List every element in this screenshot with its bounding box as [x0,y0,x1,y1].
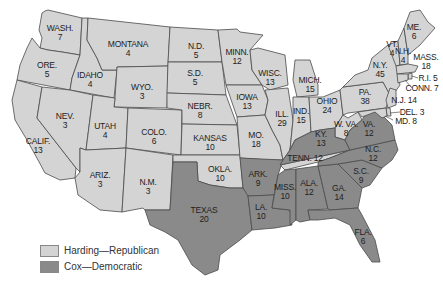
label-nh: N.H.4 [395,47,411,65]
label-ky: KY.13 [315,130,327,148]
label-nj: N.J.14 [391,96,416,105]
label-sd: S.D.5 [187,69,203,87]
label-tenn: TENN.12 [287,154,323,163]
label-sc: S.C.9 [353,167,369,185]
republican-swatch [40,245,59,257]
democratic-swatch [40,261,59,273]
state-ri [408,73,412,79]
label-idaho: IDAHO4 [77,71,103,89]
label-mo: MO.18 [248,131,263,149]
label-iowa: IOWA13 [236,93,258,111]
label-texas: TEXAS20 [191,206,218,224]
label-colo: COLO.6 [141,128,166,146]
label-ind: IND.15 [293,107,309,125]
label-mich: MICH.15 [298,76,321,94]
label-nev: NEV.3 [56,112,74,130]
label-ariz: ARIZ.3 [90,171,111,189]
legend-item-democratic: Cox—Democratic [40,260,159,273]
label-ala: ALA.12 [300,179,318,197]
label-utah: UTAH4 [94,122,116,140]
legend-label-democratic: Cox—Democratic [64,261,142,272]
label-la: LA.10 [255,203,267,221]
label-calif: CALIF.13 [26,137,50,155]
label-conn: CONN.7 [406,84,439,93]
label-fla: FLA.6 [354,228,371,246]
label-pa: PA.38 [359,88,371,106]
label-miss: MISS.10 [274,183,296,201]
label-ny: N.Y.45 [373,61,388,79]
label-va: VA.12 [363,120,375,138]
label-md: MD.8 [395,117,417,126]
label-nc: N.C.12 [365,145,381,163]
label-me: ME.6 [407,23,422,41]
label-wisc: WISC.13 [258,69,282,87]
label-nd: N.D.5 [188,42,204,60]
label-nebr: NEBR.8 [188,102,213,120]
label-nm: N.M.3 [139,178,156,196]
legend-item-republican: Harding—Republican [40,244,159,257]
label-ri: R.I.5 [419,74,438,83]
map-legend: Harding—Republican Cox—Democratic [40,244,159,276]
label-wva: W. VA.8 [334,120,358,138]
label-ohio: OHIO24 [317,97,338,115]
label-montana: MONTANA4 [108,40,148,58]
label-wash: WASH.7 [47,24,74,42]
label-ore: ORE.5 [37,61,57,79]
label-kansas: KANSAS10 [193,134,226,152]
label-ga: GA.14 [332,184,346,202]
legend-label-republican: Harding—Republican [64,245,159,256]
label-okla: OKLA.10 [208,165,232,183]
label-ill: ILL.29 [275,110,288,128]
label-wyo: WYO.3 [131,83,153,101]
label-minn: MINN.12 [225,48,248,66]
label-ark: ARK.9 [248,170,267,188]
label-mass: MASS.18 [413,53,438,71]
